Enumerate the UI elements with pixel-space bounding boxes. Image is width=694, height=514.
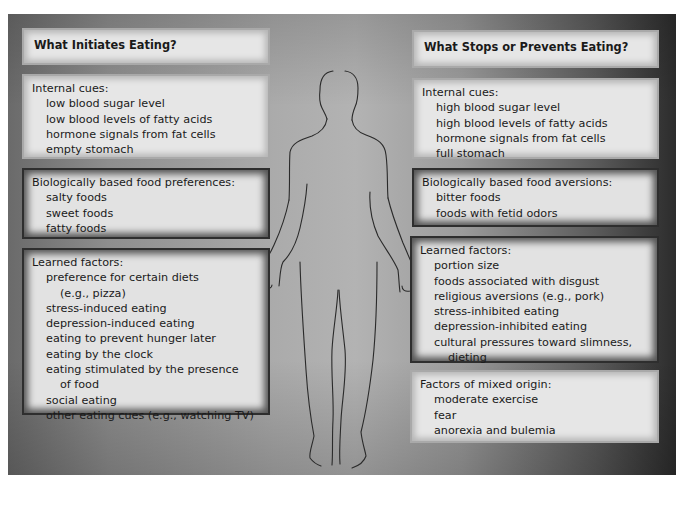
list-item: bitter foods xyxy=(422,190,649,205)
list-item: fatty foods xyxy=(32,221,260,236)
list-item: eating to prevent hunger later xyxy=(32,331,260,346)
left-internal-heading: Internal cues: xyxy=(32,81,260,96)
list-item: empty stomach xyxy=(32,142,260,157)
left-title: What Initiates Eating? xyxy=(34,38,177,52)
left-learned-heading: Learned factors: xyxy=(32,255,260,270)
list-item-continuation: (e.g., pizza) xyxy=(32,286,260,301)
right-learned-heading: Learned factors: xyxy=(420,243,649,258)
right-title-box: What Stops or Prevents Eating? xyxy=(412,30,659,68)
list-item: religious aversions (e.g., pork) xyxy=(420,289,649,304)
list-item: high blood levels of fatty acids xyxy=(422,116,649,131)
list-item: eating by the clock xyxy=(32,347,260,362)
list-item: social eating xyxy=(32,393,260,408)
list-item-continuation: of food xyxy=(32,377,260,392)
list-item: hormone signals from fat cells xyxy=(422,131,649,146)
list-item: low blood levels of fatty acids xyxy=(32,112,260,127)
list-item: anorexia and bulemia xyxy=(420,423,649,438)
right-mixed-heading: Factors of mixed origin: xyxy=(420,377,649,392)
list-item: foods associated with disgust xyxy=(420,274,649,289)
right-biological-heading: Biologically based food aversions: xyxy=(422,175,649,190)
right-internal-heading: Internal cues: xyxy=(422,85,649,100)
list-item: eating stimulated by the presence xyxy=(32,362,260,377)
left-internal-cues-box: Internal cues: low blood sugar level low… xyxy=(22,74,270,159)
right-learned-box: Learned factors: portion size foods asso… xyxy=(410,236,659,363)
list-item: depression-inhibited eating xyxy=(420,319,649,334)
left-title-box: What Initiates Eating? xyxy=(22,28,270,65)
list-item: foods with fetid odors xyxy=(422,206,649,221)
list-item: stress-induced eating xyxy=(32,301,260,316)
list-item: cultural pressures toward slimness, xyxy=(420,335,649,350)
list-item: hormone signals from fat cells xyxy=(32,127,260,142)
list-item: depression-induced eating xyxy=(32,316,260,331)
list-item: portion size xyxy=(420,258,649,273)
right-biological-box: Biologically based food aversions: bitte… xyxy=(412,168,659,227)
left-biological-heading: Biologically based food preferences: xyxy=(32,175,260,190)
list-item: full stomach xyxy=(422,146,649,161)
list-item: stress-inhibited eating xyxy=(420,304,649,319)
right-title: What Stops or Prevents Eating? xyxy=(424,40,628,54)
left-learned-box: Learned factors: preference for certain … xyxy=(22,248,270,415)
list-item: other eating cues (e.g., watching TV) xyxy=(32,408,260,423)
list-item: preference for certain diets xyxy=(32,270,260,285)
list-item-continuation: dieting xyxy=(420,350,649,365)
left-biological-box: Biologically based food preferences: sal… xyxy=(22,168,270,239)
list-item: sweet foods xyxy=(32,206,260,221)
list-item: fear xyxy=(420,408,649,423)
right-internal-cues-box: Internal cues: high blood sugar level hi… xyxy=(412,78,659,159)
list-item: salty foods xyxy=(32,190,260,205)
right-mixed-origin-box: Factors of mixed origin: moderate exerci… xyxy=(410,370,659,443)
list-item: low blood sugar level xyxy=(32,96,260,111)
list-item: high blood sugar level xyxy=(422,100,649,115)
list-item: moderate exercise xyxy=(420,392,649,407)
